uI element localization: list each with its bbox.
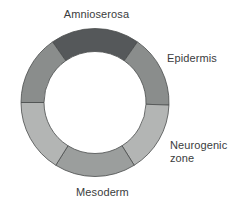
ring-segment-amnioserosa	[53, 29, 138, 61]
ring-segment-mesoderm	[56, 146, 134, 177]
ring-segment-epidermis	[124, 42, 169, 105]
label-mesoderm: Mesoderm	[10, 186, 195, 199]
ring-segment-segment-lower-left	[21, 103, 68, 166]
label-epidermis: Epidermis	[167, 52, 217, 65]
ring-diagram-figure: Amnioserosa Epidermis Neurogenic zone Me…	[0, 0, 236, 210]
ring-segment-group	[21, 29, 169, 177]
label-neurogenic-zone: Neurogenic zone	[170, 139, 227, 164]
ring-segment-neurogenic-zone	[122, 104, 169, 165]
ring-chart	[0, 0, 236, 210]
label-amnioserosa: Amnioserosa	[0, 8, 193, 21]
ring-segment-segment-upper-left	[21, 42, 66, 103]
